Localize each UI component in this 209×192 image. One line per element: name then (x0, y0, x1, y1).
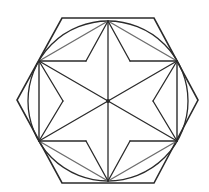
center-point (106, 99, 110, 103)
center-dot (106, 99, 110, 103)
spoke-to-vertex-4 (39, 101, 108, 141)
asanoha-hexagon-diagram (0, 0, 209, 192)
star-edge-b-4 (39, 61, 63, 101)
spoke-to-vertex-1 (108, 61, 177, 101)
diagram-canvas (0, 0, 209, 192)
star-edge-a-1 (153, 61, 177, 101)
star-edge-b-1 (153, 101, 177, 141)
spoke-to-vertex-2 (108, 101, 177, 141)
spoke-to-vertex-5 (39, 61, 108, 101)
star-edge-a-4 (39, 101, 63, 141)
